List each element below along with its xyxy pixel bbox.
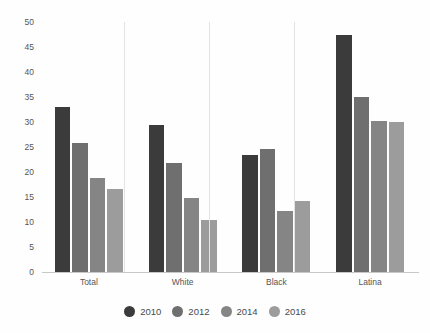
bar-chart: 0 5 10 15 20 25 30 35 40 45 50 TotalWhit…	[0, 0, 430, 333]
x-axis-category-label: Black	[242, 278, 310, 287]
legend-item[interactable]: 2010	[124, 306, 161, 317]
x-axis-category-label: Latina	[336, 278, 404, 287]
legend-item[interactable]: 2014	[221, 306, 258, 317]
legend-item[interactable]: 2016	[269, 306, 306, 317]
bar-group: Black	[242, 22, 310, 272]
bar[interactable]	[55, 107, 71, 272]
bar[interactable]	[295, 201, 311, 272]
bar-group-bars	[149, 22, 217, 272]
bar[interactable]	[260, 149, 276, 272]
bar[interactable]	[371, 121, 387, 272]
legend-swatch-circle-icon	[124, 306, 135, 317]
y-tick-label: 20	[25, 168, 34, 177]
legend-label: 2016	[285, 307, 306, 317]
x-axis-category-label: Total	[55, 278, 123, 287]
legend-label: 2014	[237, 307, 258, 317]
bar[interactable]	[72, 143, 88, 272]
legend-label: 2012	[188, 307, 209, 317]
bar-group-bars	[336, 22, 404, 272]
bar[interactable]	[166, 163, 182, 272]
bar[interactable]	[184, 198, 200, 272]
y-tick-label: 15	[25, 193, 34, 202]
x-axis-baseline	[42, 272, 419, 273]
bar-group: White	[149, 22, 217, 272]
bar[interactable]	[107, 189, 123, 272]
bar-group: Latina	[336, 22, 404, 272]
legend-swatch-circle-icon	[172, 306, 183, 317]
bar[interactable]	[242, 155, 258, 273]
group-separator	[209, 22, 210, 272]
y-tick-label: 30	[25, 118, 34, 127]
bar[interactable]	[389, 122, 405, 272]
group-separator	[294, 22, 295, 272]
legend-swatch-circle-icon	[221, 306, 232, 317]
chart-legend: 2010201220142016	[0, 306, 430, 317]
bar[interactable]	[336, 35, 352, 273]
bar[interactable]	[354, 97, 370, 272]
y-tick-label: 45	[25, 43, 34, 52]
bar[interactable]	[149, 125, 165, 273]
y-tick-label: 25	[25, 143, 34, 152]
bar-group-bars	[242, 22, 310, 272]
bar-group-bars	[55, 22, 123, 272]
bar[interactable]	[90, 178, 106, 272]
plot-area: TotalWhiteBlackLatina	[42, 22, 417, 272]
legend-item[interactable]: 2012	[172, 306, 209, 317]
y-tick-label: 40	[25, 68, 34, 77]
y-tick-label: 0	[29, 268, 34, 277]
group-separator	[124, 22, 125, 272]
y-tick-label: 5	[29, 243, 34, 252]
bar-group: Total	[55, 22, 123, 272]
legend-swatch-circle-icon	[269, 306, 280, 317]
legend-label: 2010	[140, 307, 161, 317]
y-tick-label: 50	[25, 18, 34, 27]
y-tick-label: 10	[25, 218, 34, 227]
y-tick-label: 35	[25, 93, 34, 102]
bar[interactable]	[277, 211, 293, 272]
x-axis-category-label: White	[149, 278, 217, 287]
